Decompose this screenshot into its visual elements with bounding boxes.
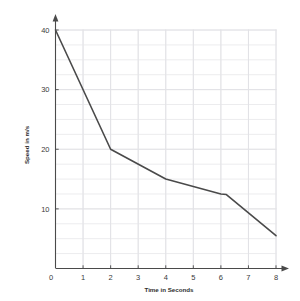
origin-label: 0 — [49, 273, 53, 282]
x-tick-label: 4 — [164, 273, 168, 282]
x-tick-label: 7 — [246, 273, 250, 282]
x-tick-label: 1 — [81, 273, 85, 282]
y-axis-title: Speed in m/s — [23, 125, 30, 164]
chart-container: 012345678 10203040 Time in Seconds Speed… — [0, 0, 300, 301]
y-tick-label: 40 — [41, 26, 49, 35]
x-tick-label: 8 — [274, 273, 278, 282]
x-tick-label: 5 — [191, 273, 195, 282]
x-tick-label: 2 — [109, 273, 113, 282]
y-tick-label: 10 — [41, 205, 49, 214]
x-axis-title: Time in Seconds — [144, 286, 194, 293]
x-tick-label: 6 — [219, 273, 223, 282]
y-tick-label: 20 — [41, 145, 49, 154]
y-tick-label: 30 — [41, 85, 49, 94]
x-tick-label: 3 — [136, 273, 140, 282]
speed-time-line-chart: 012345678 10203040 Time in Seconds Speed… — [0, 0, 300, 301]
